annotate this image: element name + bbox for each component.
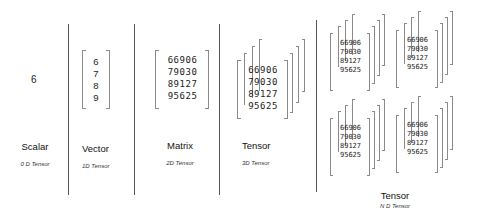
tensor3d-right-bracket: [284, 60, 288, 119]
vector-value: 8: [86, 80, 106, 92]
matrix-row: 79030: [160, 66, 205, 78]
matrix-row: 66906: [160, 54, 205, 66]
block-row: 95625: [334, 66, 367, 75]
layer-bracket: [302, 39, 305, 92]
layer-bracket: [377, 20, 380, 76]
block-row: 66906: [401, 36, 434, 45]
block-values: 66906 79030 89127 95625: [334, 124, 367, 160]
layer-bracket: [372, 26, 375, 84]
tensor3d-values: 66906 79030 89127 95625: [242, 64, 284, 112]
matrix-title: Matrix: [150, 140, 210, 151]
block-row: 66906: [401, 121, 434, 130]
tensor3d-row: 95625: [242, 100, 284, 112]
scalar-subtitle: 0 D Tensor: [10, 161, 60, 167]
block-row: 89127: [334, 57, 367, 66]
front-right-bracket: [435, 115, 438, 173]
layer-bracket: [296, 46, 299, 103]
layer-bracket: [377, 105, 380, 161]
vector-subtitle: 1D Tensor: [74, 163, 132, 169]
tensor3d-subtitle: 3D Tensor: [242, 160, 282, 166]
layer-bracket: [290, 53, 293, 113]
block-row: 89127: [401, 54, 434, 63]
scalar-title: Scalar: [10, 141, 60, 152]
block-values: 66906 79030 89127 95625: [334, 39, 367, 75]
front-left-bracket: [330, 33, 333, 91]
tensor3d-title: Tensor: [242, 140, 282, 151]
tensor3d-row: 89127: [242, 88, 284, 100]
block-row: 79030: [401, 130, 434, 139]
matrix-right-bracket: [205, 50, 209, 109]
tensornd-subtitle: N D Tensor: [365, 203, 425, 209]
block-row: 95625: [334, 151, 367, 160]
divider-1: [68, 24, 69, 195]
layer-bracket: [450, 96, 453, 150]
layer-bracket: [445, 17, 448, 75]
vector-title: Vector: [74, 143, 132, 154]
front-right-bracket: [367, 33, 370, 91]
matrix-left-bracket: [155, 50, 159, 109]
block-row: 79030: [401, 45, 434, 54]
vector-value: 6: [86, 56, 106, 68]
matrix-row: 95625: [160, 90, 205, 102]
matrix-subtitle: 2D Tensor: [150, 160, 210, 166]
front-left-bracket: [396, 115, 399, 173]
layer-bracket: [440, 108, 443, 168]
matrix-values: 66906 79030 89127 95625: [160, 54, 205, 102]
block-row: 66906: [334, 124, 367, 133]
block-row: 66906: [334, 39, 367, 48]
tensor3d-row: 66906: [242, 64, 284, 76]
tensornd-block: 66906 79030 89127 95625: [330, 99, 390, 174]
vector-value: 7: [86, 68, 106, 80]
tensornd-title: Tensor: [365, 190, 425, 201]
divider-3: [219, 24, 220, 195]
layer-bracket: [382, 99, 385, 151]
vector-values: 6 7 8 9: [86, 56, 106, 104]
front-left-bracket: [396, 30, 399, 88]
vector-value: 9: [86, 92, 106, 104]
tensornd-block: 66906 79030 89127 95625: [396, 96, 456, 171]
tensor3d-left-bracket: [237, 60, 241, 119]
front-right-bracket: [367, 118, 370, 176]
front-right-bracket: [435, 30, 438, 88]
block-values: 66906 79030 89127 95625: [401, 36, 434, 72]
block-row: 89127: [334, 142, 367, 151]
block-row: 89127: [401, 139, 434, 148]
tensornd-block: 66906 79030 89127 95625: [396, 11, 456, 86]
matrix-row: 89127: [160, 78, 205, 90]
layer-bracket: [445, 102, 448, 160]
block-row: 79030: [334, 48, 367, 57]
layer-bracket: [372, 111, 375, 169]
layer-bracket: [440, 23, 443, 83]
tensor3d-row: 79030: [242, 76, 284, 88]
front-left-bracket: [330, 118, 333, 176]
layer-bracket: [382, 14, 385, 66]
scalar-value: 6: [31, 74, 37, 85]
divider-2: [134, 24, 135, 195]
block-row: 95625: [401, 148, 434, 157]
vector-right-bracket: [106, 50, 110, 109]
block-row: 95625: [401, 63, 434, 72]
block-values: 66906 79030 89127 95625: [401, 121, 434, 157]
divider-4: [316, 20, 317, 192]
block-row: 79030: [334, 133, 367, 142]
layer-bracket: [450, 11, 453, 65]
tensornd-block: 66906 79030 89127 95625: [330, 14, 390, 89]
